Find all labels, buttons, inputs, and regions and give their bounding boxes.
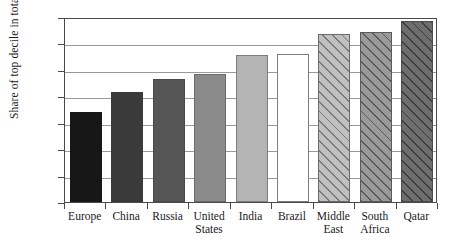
y-tick-mark: [58, 150, 64, 151]
x-tick-mark: [271, 203, 272, 209]
x-tick-label: South Africa: [354, 210, 395, 236]
x-tick-label: Russia: [147, 210, 188, 223]
y-tick-mark: [58, 44, 64, 45]
y-tick-mark: [58, 124, 64, 125]
x-tick-mark: [105, 203, 106, 209]
y-tick-mark: [58, 71, 64, 72]
bar: [360, 32, 392, 202]
x-tick-label: China: [105, 210, 146, 223]
bar: [318, 34, 350, 202]
x-tick-label: Brazil: [271, 210, 312, 223]
bar-chart: Share of top decile in total income 0%10…: [0, 0, 456, 244]
bar-series: [65, 19, 436, 202]
x-tick-mark: [147, 203, 148, 209]
y-tick-mark: [58, 97, 64, 98]
x-tick-mark: [64, 203, 65, 209]
x-tick-mark: [313, 203, 314, 209]
x-tick-mark: [188, 203, 189, 209]
x-tick-mark: [230, 203, 231, 209]
x-tick-label: Europe: [64, 210, 105, 223]
x-tick-label: Qatar: [396, 210, 437, 223]
bar: [194, 74, 226, 202]
y-tick-mark: [58, 18, 64, 19]
x-tick-mark: [396, 203, 397, 209]
x-tick-label: Middle East: [313, 210, 354, 236]
y-tick-mark: [58, 177, 64, 178]
y-axis-title: Share of top decile in total income: [5, 0, 23, 138]
bar: [277, 54, 309, 202]
bar: [111, 92, 143, 202]
plot-area: [64, 18, 437, 203]
x-tick-mark: [437, 203, 438, 209]
x-tick-mark: [354, 203, 355, 209]
bar: [401, 21, 433, 202]
x-tick-label: United States: [188, 210, 229, 236]
bar: [236, 55, 268, 202]
bar: [70, 112, 102, 202]
bar: [153, 79, 185, 202]
x-tick-label: India: [230, 210, 271, 223]
